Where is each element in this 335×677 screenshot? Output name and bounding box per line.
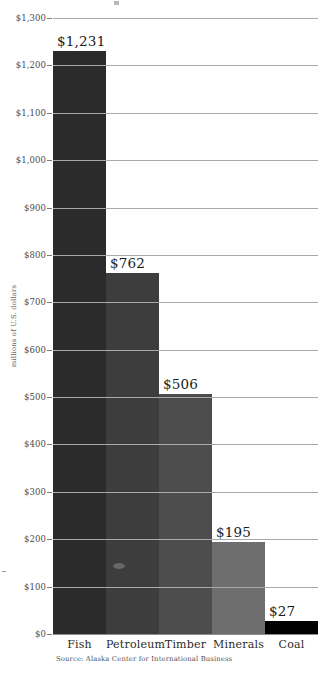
bar-timber [159, 394, 212, 634]
left-margin-artifact [2, 571, 6, 572]
x-axis-category-label: Timber [159, 638, 212, 651]
bar-value-label: $1,231 [57, 33, 105, 49]
x-axis-category-label: Coal [265, 638, 318, 651]
bar-minerals [212, 542, 265, 634]
y-axis-tick-label: $300 [0, 487, 46, 497]
bar-value-label: $195 [216, 524, 251, 540]
bar-value-label: $27 [269, 603, 295, 619]
page-scan-smudge [113, 563, 125, 569]
source-note: Source: Alaska Center for International … [56, 655, 232, 663]
y-axis-tick-label: $600 [0, 345, 46, 355]
y-axis-tick-label: $100 [0, 582, 46, 592]
y-axis-tick-label: $1,000 [0, 155, 46, 165]
y-axis-tick-label: $400 [0, 439, 46, 449]
y-axis-tick-label: $0 [0, 629, 46, 639]
gridline [53, 18, 318, 19]
y-axis-tick [47, 539, 52, 540]
gridline [53, 444, 318, 445]
y-axis-tick [47, 18, 52, 19]
gridline [53, 65, 318, 66]
y-axis-tick-label: $700 [0, 297, 46, 307]
gridline [53, 634, 318, 635]
bar-petroleum [106, 273, 159, 634]
bar-coal [265, 621, 318, 634]
y-axis-tick [47, 302, 52, 303]
y-axis-tick [47, 255, 52, 256]
x-axis-category-label: Fish [53, 638, 106, 651]
y-axis-tick-label: $500 [0, 392, 46, 402]
y-axis-tick-label: $900 [0, 203, 46, 213]
gridline [53, 397, 318, 398]
y-axis-tick-label: $1,300 [0, 13, 46, 23]
y-axis-tick-label: $1,100 [0, 108, 46, 118]
y-axis-tick [47, 65, 52, 66]
bar-chart: millions of U.S. dollars $0$100$200$300$… [0, 0, 335, 677]
gridline [53, 350, 318, 351]
gridline [53, 208, 318, 209]
gridline [53, 539, 318, 540]
top-crop-artifact [114, 1, 119, 5]
gridline [53, 113, 318, 114]
y-axis-tick [47, 492, 52, 493]
gridline [53, 492, 318, 493]
y-axis-tick [47, 113, 52, 114]
y-axis-tick [47, 350, 52, 351]
y-axis-tick-label: $200 [0, 534, 46, 544]
bar-value-label: $506 [163, 376, 198, 392]
y-axis-tick [47, 208, 52, 209]
plot-area [53, 18, 318, 634]
gridline [53, 255, 318, 256]
x-axis-category-label: Petroleum [106, 638, 159, 651]
y-axis-tick-label: $1,200 [0, 60, 46, 70]
gridline [53, 302, 318, 303]
y-axis-title: millions of U.S. dollars [10, 266, 18, 386]
x-axis-category-label: Minerals [212, 638, 265, 651]
y-axis-tick-label: $800 [0, 250, 46, 260]
y-axis-tick [47, 444, 52, 445]
y-axis-tick [47, 160, 52, 161]
bar-fish [53, 51, 106, 634]
y-axis-tick [47, 587, 52, 588]
y-axis-tick [47, 397, 52, 398]
gridline [53, 587, 318, 588]
gridline [53, 160, 318, 161]
y-axis-tick [47, 634, 52, 635]
bar-value-label: $762 [110, 255, 145, 271]
